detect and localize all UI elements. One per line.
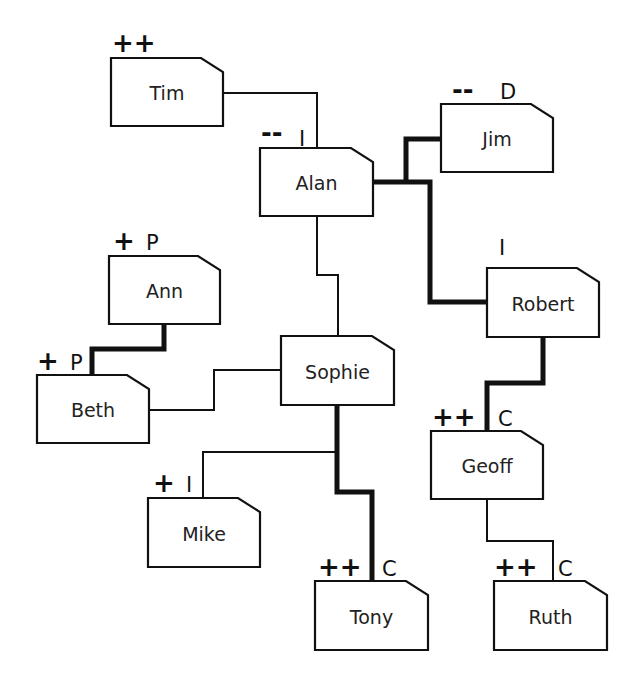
node-label: Robert	[512, 293, 575, 315]
rating-tony: ++	[318, 552, 362, 582]
node-label: Ann	[146, 280, 183, 302]
node-ann[interactable]: Ann	[109, 256, 220, 324]
role-beth: P	[70, 351, 83, 375]
role-jim: D	[500, 80, 516, 104]
stakeholder-diagram: TimAlanJimRobertAnnBethSophieGeoffMikeTo…	[0, 0, 639, 677]
edge-alan-robert	[373, 182, 487, 302]
node-geoff[interactable]: Geoff	[431, 431, 543, 499]
rating-geoff: ++	[432, 402, 476, 432]
node-label: Mike	[182, 523, 226, 545]
node-label: Beth	[71, 399, 115, 421]
node-label: Tony	[349, 606, 393, 628]
rating-alan: --	[261, 118, 283, 148]
rating-tim: ++	[112, 28, 156, 58]
rating-mike: +	[153, 468, 175, 498]
node-jim[interactable]: Jim	[441, 104, 553, 172]
rating-jim: --	[452, 75, 474, 105]
node-alan[interactable]: Alan	[260, 148, 373, 216]
node-label: Ruth	[529, 606, 573, 628]
edge-sophie-mike	[203, 452, 337, 498]
rating-beth: +	[37, 346, 59, 376]
role-tony: C	[382, 557, 397, 581]
node-label: Geoff	[461, 455, 513, 477]
rating-ann: +	[113, 226, 135, 256]
role-geoff: C	[498, 407, 513, 431]
node-beth[interactable]: Beth	[37, 375, 149, 443]
edge-alan-jim	[406, 139, 441, 182]
edge-ann-beth	[92, 324, 164, 375]
role-mike: I	[186, 473, 192, 497]
rating-ruth: ++	[494, 552, 538, 582]
node-sophie[interactable]: Sophie	[281, 336, 394, 405]
node-ruth[interactable]: Ruth	[494, 581, 607, 650]
edge-alan-sophie	[317, 216, 338, 336]
role-robert: I	[499, 236, 505, 260]
role-ruth: C	[558, 557, 573, 581]
node-tony[interactable]: Tony	[315, 581, 428, 650]
role-ann: P	[146, 231, 159, 255]
node-robert[interactable]: Robert	[487, 268, 599, 337]
node-label: Alan	[296, 172, 338, 194]
node-mike[interactable]: Mike	[148, 498, 260, 567]
edge-beth-sophie	[149, 370, 281, 410]
node-label: Sophie	[305, 361, 370, 383]
role-alan: I	[299, 127, 305, 151]
node-label: Tim	[149, 82, 185, 104]
edge-robert-geoff	[487, 337, 543, 431]
node-label: Jim	[481, 128, 511, 150]
node-tim[interactable]: Tim	[111, 58, 223, 126]
